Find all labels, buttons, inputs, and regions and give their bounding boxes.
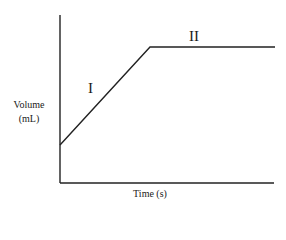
y-axis-label-line1: Volume [6,98,52,112]
y-axis-label: Volume (mL) [6,98,52,126]
region-label-i: I [88,80,93,97]
region-label-ii: II [189,28,199,45]
x-axis-label: Time (s) [110,188,190,199]
y-axis-label-line2: (mL) [6,112,52,126]
